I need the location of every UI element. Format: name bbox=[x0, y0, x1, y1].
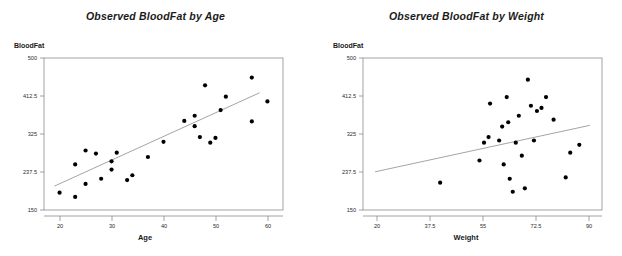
scatter-point bbox=[506, 120, 510, 124]
scatter-point bbox=[213, 136, 217, 140]
scatter-point bbox=[532, 138, 536, 142]
plot-area-weight: 500 412.5 325 237.5 150 20 37.5 55 72.5 … bbox=[311, 0, 622, 256]
x-tick-label: 60 bbox=[265, 223, 271, 229]
x-tick-label: 20 bbox=[374, 223, 380, 229]
y-tick-label: 237.5 bbox=[23, 169, 37, 175]
scatter-point bbox=[83, 182, 87, 186]
scatter-point bbox=[193, 114, 197, 118]
y-tick-label: 412.5 bbox=[342, 93, 356, 99]
scatter-point bbox=[568, 151, 572, 155]
scatter-point bbox=[438, 181, 442, 185]
scatter-point bbox=[500, 125, 504, 129]
scatter-point bbox=[544, 95, 548, 99]
scatter-point bbox=[73, 195, 77, 199]
y-tick-label: 325 bbox=[28, 131, 37, 137]
scatter-point bbox=[523, 186, 527, 190]
y-axis-ticks-weight: 500 412.5 325 237.5 150 bbox=[342, 55, 363, 213]
scatter-point bbox=[250, 119, 254, 123]
scatter-point bbox=[508, 177, 512, 181]
scatter-point bbox=[488, 102, 492, 106]
plot-area-age: 500 412.5 325 237.5 150 20 30 40 50 60 bbox=[0, 0, 311, 256]
x-tick-label: 30 bbox=[109, 223, 115, 229]
y-tick-label: 150 bbox=[347, 207, 356, 213]
scatter-point bbox=[482, 141, 486, 145]
x-axis-ticks-weight: 20 37.5 55 72.5 90 bbox=[374, 216, 592, 229]
scatter-point bbox=[514, 141, 518, 145]
scatter-point bbox=[198, 135, 202, 139]
scatter-point bbox=[535, 109, 539, 113]
x-tick-label: 20 bbox=[57, 223, 63, 229]
scatter-point bbox=[109, 159, 113, 163]
scatter-point bbox=[539, 106, 543, 110]
y-tick-label: 412.5 bbox=[23, 93, 37, 99]
y-tick-label: 150 bbox=[28, 207, 37, 213]
scatter-point bbox=[265, 99, 269, 103]
scatter-point bbox=[161, 140, 165, 144]
y-tick-label: 237.5 bbox=[342, 169, 356, 175]
scatter-point bbox=[57, 191, 61, 195]
scatter-point bbox=[526, 78, 530, 82]
scatter-point bbox=[520, 154, 524, 158]
scatter-point bbox=[146, 155, 150, 159]
plot-frame-age bbox=[44, 58, 283, 210]
scatter-point bbox=[486, 135, 490, 139]
scatter-point bbox=[505, 95, 509, 99]
scatter-point bbox=[109, 168, 113, 172]
x-tick-label: 55 bbox=[480, 223, 486, 229]
scatter-point bbox=[502, 162, 506, 166]
scatter-point bbox=[73, 162, 77, 166]
y-axis-ticks-age: 500 412.5 325 237.5 150 bbox=[23, 55, 44, 213]
scatter-point bbox=[224, 95, 228, 99]
chart-panel-age: Observed BloodFat by Age BloodFat Age 50… bbox=[0, 0, 311, 256]
scatter-point bbox=[125, 178, 129, 182]
y-tick-label: 500 bbox=[347, 55, 356, 61]
x-tick-label: 90 bbox=[586, 223, 592, 229]
scatter-point bbox=[115, 151, 119, 155]
x-tick-label: 72.5 bbox=[531, 223, 542, 229]
scatter-point bbox=[477, 158, 481, 162]
scatter-point bbox=[511, 190, 515, 194]
scatter-point bbox=[208, 141, 212, 145]
x-tick-label: 50 bbox=[213, 223, 219, 229]
scatter-point bbox=[564, 175, 568, 179]
scatter-point bbox=[193, 124, 197, 128]
scatter-point bbox=[182, 119, 186, 123]
scatter-point bbox=[497, 138, 501, 142]
x-tick-label: 37.5 bbox=[425, 223, 436, 229]
scatter-point bbox=[99, 177, 103, 181]
scatter-point bbox=[250, 75, 254, 79]
scatter-point bbox=[529, 104, 533, 108]
x-axis-ticks-age: 20 30 40 50 60 bbox=[57, 216, 271, 229]
plot-frame-weight bbox=[363, 58, 602, 210]
scatter-point bbox=[517, 114, 521, 118]
scatter-point bbox=[203, 83, 207, 87]
scatter-point bbox=[577, 143, 581, 147]
scatter-point bbox=[94, 151, 98, 155]
scatterplot-sheet: Observed BloodFat by Age BloodFat Age 50… bbox=[0, 0, 622, 256]
scatter-point bbox=[219, 108, 223, 112]
scatter-point bbox=[83, 148, 87, 152]
scatter-point bbox=[130, 173, 134, 177]
chart-panel-weight: Observed BloodFat by Weight BloodFat Wei… bbox=[311, 0, 622, 256]
y-tick-label: 325 bbox=[347, 131, 356, 137]
scatter-point bbox=[551, 118, 555, 122]
x-tick-label: 40 bbox=[161, 223, 167, 229]
y-tick-label: 500 bbox=[28, 55, 37, 61]
